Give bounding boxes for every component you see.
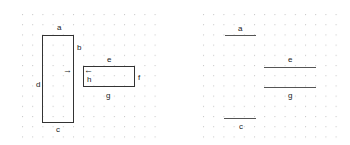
label-d: d bbox=[36, 81, 40, 89]
segment-a bbox=[225, 35, 256, 36]
label-f: f bbox=[138, 74, 140, 82]
segment-g bbox=[264, 87, 316, 88]
label-e: e bbox=[107, 56, 111, 64]
arrow-left-icon: ← bbox=[84, 66, 93, 74]
label-c: c bbox=[239, 123, 243, 131]
tall-rectangle bbox=[42, 35, 74, 123]
label-g: g bbox=[288, 92, 292, 100]
arrow-right-icon: → bbox=[63, 66, 72, 74]
label-g: g bbox=[106, 92, 110, 100]
label-a: a bbox=[57, 24, 61, 32]
segment-c bbox=[224, 118, 256, 119]
label-a: a bbox=[238, 25, 242, 33]
dot-grid bbox=[175, 0, 350, 145]
segment-e bbox=[264, 67, 316, 68]
label-h: h bbox=[87, 76, 91, 84]
label-e: e bbox=[288, 56, 292, 64]
label-c: c bbox=[56, 126, 60, 134]
left-figure: a b c d e f g h → ← bbox=[0, 0, 175, 145]
right-figure: a e g c bbox=[175, 0, 350, 145]
label-b: b bbox=[77, 44, 81, 52]
